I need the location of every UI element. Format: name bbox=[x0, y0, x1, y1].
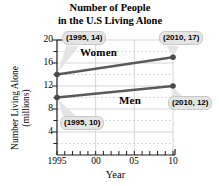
callout-women-1995: (1995, 14) bbox=[62, 31, 106, 45]
x-tick-label-00: 00 bbox=[83, 156, 109, 166]
x-axis-title: Year bbox=[57, 169, 174, 180]
callout-men-1995: (1995, 10) bbox=[60, 116, 104, 130]
x-tick-label-1995: 1995 bbox=[44, 156, 70, 166]
x-tick-label-10: 10 bbox=[160, 156, 186, 166]
series-label-men: Men bbox=[119, 94, 141, 106]
living-alone-chart: Number of People in the U.S Living Alone… bbox=[0, 0, 219, 186]
callout-men-2010: (2010, 12) bbox=[168, 96, 212, 110]
x-tick-label-05: 05 bbox=[121, 156, 147, 166]
callout-women-2010: (2010, 17) bbox=[159, 31, 203, 45]
plot-area bbox=[0, 0, 219, 186]
series-label-women: Women bbox=[80, 46, 117, 58]
